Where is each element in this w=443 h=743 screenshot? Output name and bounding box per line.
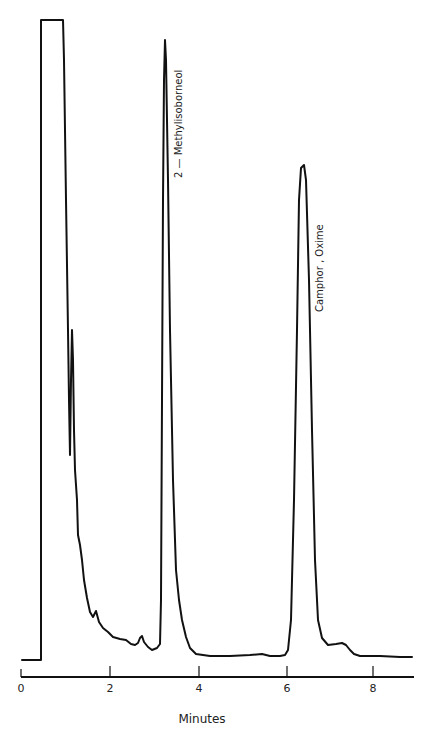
x-axis-ticks [21, 666, 373, 677]
peak-label-methylisoborneol: 2 — Methylisoborneol [173, 70, 184, 178]
chromatogram-trace [22, 20, 412, 660]
x-tick-label-0: 0 [18, 682, 25, 695]
peak-label-camphor-oxime: Camphor , Oxime [314, 224, 325, 312]
x-tick-label-6: 6 [284, 682, 291, 695]
x-axis-title: Minutes [178, 712, 225, 726]
x-tick-label-2: 2 [107, 682, 114, 695]
x-tick-label-8: 8 [370, 682, 377, 695]
x-tick-label-4: 4 [196, 682, 203, 695]
chromatogram-chart: 0 2 4 6 8 Minutes 2 — Methylisoborneol C… [0, 0, 443, 743]
